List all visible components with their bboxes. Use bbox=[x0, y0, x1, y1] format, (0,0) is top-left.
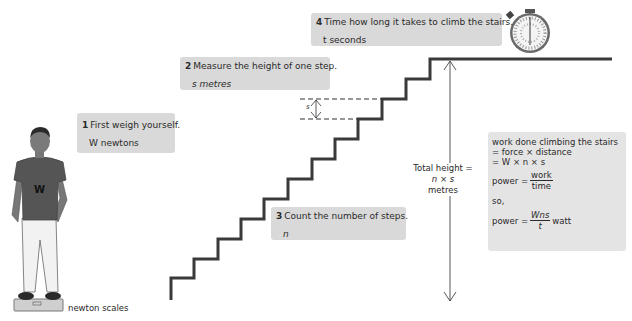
total-height-label: Total height = n × s metres bbox=[409, 163, 477, 196]
step-2-variable: s metres bbox=[185, 78, 330, 90]
fraction-denominator: time bbox=[530, 181, 553, 191]
step-1-instruction: First weigh yourself. bbox=[90, 120, 180, 130]
step-4-instruction: Time how long it takes to climb the stai… bbox=[324, 17, 513, 27]
fraction-numerator: work bbox=[530, 170, 553, 181]
step-3-instruction: Count the number of steps. bbox=[284, 211, 408, 221]
fraction-numerator-2: Wns bbox=[530, 210, 550, 221]
step-3-number: 3 bbox=[276, 211, 282, 221]
formula-line2: = force × distance bbox=[492, 147, 626, 157]
step-3-box: 3Count the number of steps. n bbox=[271, 207, 406, 240]
step-1-number: 1 bbox=[82, 120, 88, 130]
formula-so: so, bbox=[492, 196, 626, 206]
formula-box: work done climbing the stairs = force × … bbox=[488, 132, 626, 251]
step-2-instruction: Measure the height of one step. bbox=[193, 61, 337, 71]
formula-line1: work done climbing the stairs bbox=[492, 137, 626, 147]
step-1-box: 1First weigh yourself. W newtons bbox=[77, 113, 175, 153]
step-height-label: s bbox=[306, 103, 310, 111]
shirt-letter: W bbox=[34, 184, 45, 195]
work-over-time-fraction: work time bbox=[530, 170, 553, 191]
total-height-line1: Total height = bbox=[409, 163, 477, 174]
step-1-variable: W newtons bbox=[82, 137, 175, 149]
power-label-2: power = bbox=[492, 216, 528, 226]
fraction-denominator-2: t bbox=[530, 221, 550, 231]
wns-over-t-fraction: Wns t bbox=[530, 210, 550, 231]
power-unit: watt bbox=[552, 216, 571, 226]
scales-label: newton scales bbox=[68, 303, 129, 313]
step-2-box: 2Measure the height of one step. s metre… bbox=[180, 57, 330, 90]
step-4-box: 4Time how long it takes to climb the sta… bbox=[311, 13, 502, 46]
step-height-arrow-icon bbox=[311, 100, 321, 118]
step-3-variable: n bbox=[276, 228, 406, 240]
power-label: power = bbox=[492, 176, 528, 186]
total-height-line3: metres bbox=[409, 185, 477, 196]
formula-line3: = W × n × s bbox=[492, 157, 626, 167]
total-height-line2: n × s bbox=[409, 174, 477, 185]
stopwatch-icon bbox=[506, 9, 550, 53]
step-2-number: 2 bbox=[185, 61, 191, 71]
step-4-number: 4 bbox=[316, 17, 322, 27]
step-4-variable: t seconds bbox=[316, 34, 502, 46]
person-figure bbox=[12, 127, 67, 311]
